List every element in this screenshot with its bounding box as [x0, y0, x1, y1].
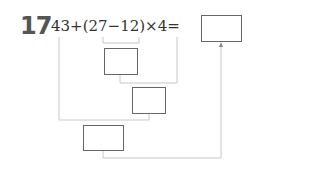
answer-box[interactable] [201, 15, 242, 42]
step-box-3[interactable] [83, 125, 124, 151]
step-box-1[interactable] [104, 48, 138, 75]
arrow-up-icon [219, 42, 223, 47]
step-box-2[interactable] [132, 87, 166, 114]
